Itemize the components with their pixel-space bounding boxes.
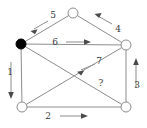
graph-diagram: 1 2 3 4 5 6 7 ?: [0, 0, 147, 128]
edge-line-5: [21, 13, 73, 44]
edge-label-7: 7: [96, 56, 102, 66]
edge-label-4: 4: [115, 24, 121, 34]
edge-line-8: [21, 44, 126, 107]
node-bottom-left[interactable]: [17, 102, 27, 112]
edge-line-1: [21, 44, 22, 107]
edge-label-5: 5: [50, 10, 56, 20]
arrow-head-right-2: [81, 113, 88, 119]
edge-line-6: [21, 44, 126, 45]
arrow-head-up-3: [133, 58, 139, 65]
edge-label-1: 1: [7, 67, 13, 77]
arrow-head-downleft-5: [31, 29, 38, 34]
edge-label-6: 6: [52, 37, 58, 47]
arrow-stem-7: [81, 64, 95, 70]
edge-label-3: 3: [134, 80, 140, 90]
arrow-head-down-1: [8, 92, 14, 99]
node-layer: [16, 8, 131, 112]
arrow-stem-4: [98, 16, 112, 24]
graph-canvas: 1 2 3 4 5 6 7 ?: [0, 0, 147, 128]
node-left-marked[interactable]: [16, 39, 26, 49]
edge-label-unknown: ?: [99, 78, 104, 88]
node-right[interactable]: [121, 40, 131, 50]
arrow-head-right-6: [84, 39, 91, 45]
arrow-stem-5: [34, 21, 48, 29]
node-bottom-right[interactable]: [121, 102, 131, 112]
arrow-head-downleft-7: [77, 71, 84, 76]
edge-label-2: 2: [45, 111, 51, 121]
node-top[interactable]: [68, 8, 78, 18]
